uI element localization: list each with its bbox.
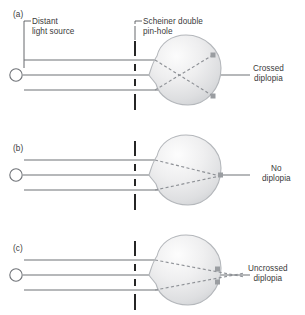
- light-source-icon: [10, 269, 22, 281]
- result-label-b: No diplopia: [262, 164, 291, 184]
- panel-b: [10, 135, 250, 210]
- panel-label-b: (b): [13, 144, 23, 154]
- retina-marker-lower-c: [215, 280, 220, 285]
- light-source-icon: [10, 69, 22, 81]
- retina-marker-upper-c: [215, 267, 220, 272]
- scheiner-pinhole-label: Scheiner double pin-hole: [143, 17, 203, 37]
- leader-bracket-pinhole: [135, 21, 142, 24]
- light-source-icon: [10, 169, 22, 181]
- result-label-c: Uncrossed diplopia: [248, 264, 288, 284]
- retina-marker-lower-a: [211, 94, 216, 99]
- eyeball-b: [149, 135, 221, 205]
- retina-marker-upper-a: [211, 53, 216, 58]
- panel-label-a: (a): [13, 10, 23, 20]
- leader-bracket-light-source: [24, 21, 31, 24]
- distant-light-source-label: Distant light source: [32, 17, 74, 37]
- panel-label-c: (c): [13, 244, 23, 254]
- result-label-a: Crossed diplopia: [253, 64, 284, 84]
- retina-marker-b: [218, 173, 223, 178]
- panel-c: [10, 235, 250, 310]
